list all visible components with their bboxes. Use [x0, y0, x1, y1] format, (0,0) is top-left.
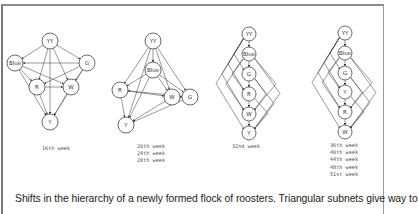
- edge-G-W: [75, 70, 82, 81]
- node-y: Y: [118, 117, 134, 133]
- node-w: W: [63, 79, 79, 95]
- panel-32nd: YYBlueGRWY32nd week: [216, 27, 280, 149]
- dominance-hierarchy-diagram: YYBlueGRWY16th weekYYBlueRWGY20th week24…: [0, 0, 386, 190]
- week-label: 24th week: [137, 150, 166, 156]
- node-g: G: [79, 55, 95, 71]
- node-yy: YY: [145, 33, 161, 49]
- node-w: W: [338, 125, 352, 139]
- node-r: R: [338, 105, 352, 119]
- week-label: 32nd week: [232, 143, 261, 149]
- node-yy: YY: [242, 27, 256, 41]
- node-w: W: [164, 89, 180, 105]
- edge-Blue-R: [322, 57, 340, 109]
- edge-YY-R: [39, 49, 48, 80]
- week-label: 48th week: [330, 164, 359, 170]
- node-blue: Blue: [242, 47, 256, 61]
- node-r: R: [242, 87, 256, 101]
- week-label: 40th week: [330, 149, 359, 155]
- svg-text:Blue: Blue: [339, 50, 352, 56]
- node-g: G: [338, 66, 352, 80]
- svg-text:Y: Y: [342, 89, 347, 95]
- edge-Blue-W: [254, 58, 276, 111]
- figure-caption: Shifts in the hierarchy of a newly forme…: [15, 193, 418, 204]
- node-yy: YY: [338, 26, 352, 40]
- edge-R-W: [128, 91, 164, 96]
- svg-text:G: G: [85, 60, 89, 66]
- edge-YY-G: [57, 45, 80, 59]
- svg-text:G: G: [247, 71, 251, 77]
- edge-YY-W: [53, 48, 67, 79]
- node-g: G: [182, 89, 198, 105]
- svg-text:Blue: Blue: [9, 60, 22, 66]
- edges: [121, 48, 185, 122]
- node-g: G: [242, 67, 256, 81]
- week-label: 51st week: [330, 171, 359, 177]
- svg-text:W: W: [68, 84, 74, 90]
- svg-text:W: W: [169, 94, 175, 100]
- node-blue: Blue: [338, 46, 352, 60]
- svg-text:YY: YY: [341, 30, 349, 36]
- svg-text:W: W: [342, 129, 348, 135]
- svg-text:Y: Y: [47, 119, 52, 125]
- svg-text:Y: Y: [246, 130, 251, 136]
- svg-text:G: G: [188, 94, 192, 100]
- svg-text:W: W: [246, 111, 252, 117]
- edge-Blue-W: [350, 57, 376, 129]
- edge-G-W: [350, 77, 370, 129]
- node-y: Y: [42, 114, 58, 130]
- svg-text:R: R: [118, 87, 122, 93]
- edge-Blue-Y: [254, 58, 280, 130]
- node-blue: Blue: [7, 55, 23, 71]
- panel-16th: YYBlueGRWY16th week: [7, 33, 95, 151]
- week-label: 44th week: [330, 156, 359, 162]
- svg-text:R: R: [343, 109, 347, 115]
- week-label: 28th week: [137, 157, 166, 163]
- svg-text:Blue: Blue: [243, 51, 256, 57]
- edge-G-Y: [254, 78, 274, 130]
- panel-20th-28th: YYBlueRWGY20th week24th week28th week: [112, 33, 198, 163]
- week-label: 20th week: [137, 143, 166, 149]
- node-r: R: [29, 79, 45, 95]
- svg-text:YY: YY: [149, 38, 157, 44]
- svg-text:R: R: [35, 84, 39, 90]
- svg-text:YY: YY: [245, 31, 253, 37]
- node-w: W: [242, 107, 256, 121]
- edge-YY-G: [157, 48, 185, 91]
- edge-YY-Y: [324, 37, 340, 89]
- svg-text:R: R: [247, 91, 251, 97]
- week-label: 36th week: [330, 142, 359, 148]
- node-yy: YY: [42, 33, 58, 49]
- node-r: R: [112, 82, 128, 98]
- week-label: 16th week: [42, 145, 71, 151]
- svg-text:G: G: [343, 70, 347, 76]
- panel-36th-51st: YYBlueGYRW36th week40th week44th week48t…: [312, 26, 376, 177]
- svg-text:Y: Y: [123, 122, 128, 128]
- node-blue: Blue: [145, 62, 161, 78]
- edge-YY-R: [228, 38, 244, 91]
- edge-W-Y: [54, 94, 67, 115]
- node-y: Y: [242, 126, 256, 140]
- svg-text:YY: YY: [46, 38, 54, 44]
- svg-text:Blue: Blue: [147, 67, 160, 73]
- edge-YY-Blue: [22, 45, 43, 58]
- node-y: Y: [338, 85, 352, 99]
- edge-R-Y: [121, 98, 124, 117]
- edge-W-Y: [133, 101, 165, 121]
